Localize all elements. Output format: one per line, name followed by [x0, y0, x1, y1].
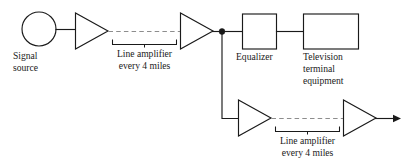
block-diagram: Signal source Line amplifier every 4 mil…: [0, 0, 408, 167]
brace-top: [113, 40, 177, 45]
line-amplifier-top-label-line1: Line amplifier: [117, 48, 173, 59]
signal-source-circle: [22, 12, 56, 46]
amplifier-bottom-2-triangle: [344, 100, 377, 136]
television-terminal-equipment-box: [304, 14, 359, 49]
signal-source-label-line2: source: [13, 62, 38, 73]
brace-bottom: [276, 127, 340, 132]
amplifier-top-1-triangle: [76, 13, 109, 49]
television-label-line3: equipment: [303, 75, 344, 86]
wire-junction-to-amplifier-bottom-1: [222, 32, 239, 119]
television-label-line1: Television: [303, 51, 343, 62]
line-amplifier-top-label-line2: every 4 miles: [119, 60, 171, 71]
output-arrow-icon: [393, 115, 401, 122]
television-label-line2: terminal: [303, 63, 335, 74]
line-amplifier-bottom-label-line1: Line amplifier: [280, 135, 336, 146]
diagram-canvas: Signal source Line amplifier every 4 mil…: [0, 0, 408, 167]
amplifier-bottom-1-triangle: [239, 100, 272, 136]
line-amplifier-bottom-label-line2: every 4 miles: [282, 147, 334, 158]
equalizer-box: [243, 14, 277, 49]
equalizer-label: Equalizer: [236, 51, 274, 62]
amplifier-top-2-triangle: [181, 13, 214, 49]
signal-source-label-line1: Signal: [13, 50, 38, 61]
